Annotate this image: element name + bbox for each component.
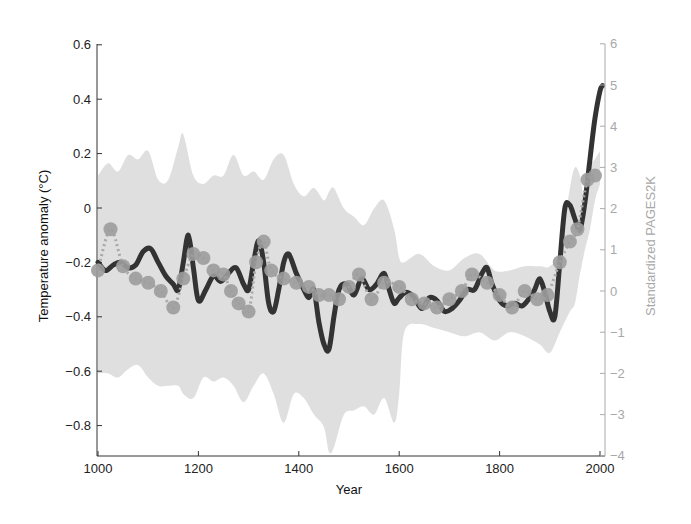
pages2k-marker [480,276,494,290]
pages2k-marker [570,222,584,236]
pages2k-marker [405,292,419,306]
pages2k-marker [518,284,532,298]
y-right-tick-label: −4 [610,448,625,463]
pages2k-marker [442,292,456,306]
x-tick-label: 1400 [284,461,313,476]
pages2k-marker [352,268,366,282]
pages2k-marker [540,288,554,302]
y-right-tick-label: −2 [610,366,625,381]
pages2k-marker [217,268,231,282]
pages2k-marker [342,280,356,294]
x-tick-label: 1000 [84,461,113,476]
pages2k-marker [91,263,105,277]
y-right-tick-label: −1 [610,325,625,340]
y-right-tick-label: 5 [610,78,617,93]
pages2k-marker [392,280,406,294]
pages2k-marker [465,268,479,282]
pages2k-marker [332,292,346,306]
pages2k-marker [588,169,602,183]
pages2k-marker [104,222,118,236]
pages2k-marker [455,284,469,298]
pages2k-marker [493,288,507,302]
pages2k-marker [430,301,444,315]
pages2k-marker [563,235,577,249]
pages2k-marker [176,272,190,286]
pages2k-marker [417,296,431,310]
y-tick-label: 0 [84,201,91,216]
chart-svg: 1000120014001600180020000.60.40.20−0.2−0… [0,0,691,524]
pages2k-marker [264,263,278,277]
y-axis-right-title: Standardized PAGES2K [643,176,658,316]
pages2k-marker [289,276,303,290]
y-tick-label: −0.6 [65,364,91,379]
y-right-tick-label: 6 [610,36,617,51]
pages2k-marker [154,284,168,298]
pages2k-marker [249,255,263,269]
pages2k-marker [505,301,519,315]
y-tick-label: −0.4 [65,309,91,324]
y-tick-label: 0.2 [73,146,91,161]
pages2k-marker [129,272,143,286]
x-axis-title: Year [336,482,363,497]
y-right-tick-label: 0 [610,284,617,299]
x-tick-label: 1200 [184,461,213,476]
y-tick-label: −0.8 [65,418,91,433]
pages2k-marker [116,259,130,273]
pages2k-marker [277,272,291,286]
pages2k-marker [242,305,256,319]
y-right-tick-label: 2 [610,201,617,216]
y-right-tick-label: 3 [610,160,617,175]
y-axis-title: Temperature anomaly (°C) [36,170,51,323]
pages2k-marker [377,276,391,290]
pages2k-marker [196,251,210,265]
y-tick-label: −0.2 [65,255,91,270]
y-tick-label: 0.4 [73,92,91,107]
pages2k-marker [553,255,567,269]
y-right-tick-label: −3 [610,407,625,422]
pages2k-marker [365,292,379,306]
pages2k-marker [224,284,238,298]
pages2k-marker [257,235,271,249]
y-tick-label: 0.6 [73,37,91,52]
pages2k-marker [166,301,180,315]
y-right-tick-label: 4 [610,119,617,134]
x-tick-label: 1600 [385,461,414,476]
pages2k-marker [141,276,155,290]
x-tick-label: 1800 [485,461,514,476]
y-right-tick-label: 1 [610,242,617,257]
